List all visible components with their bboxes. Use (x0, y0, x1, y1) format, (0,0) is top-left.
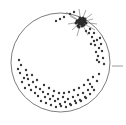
scatter-point (53, 90, 55, 92)
cluster-core-point (75, 22, 78, 25)
scatter-point (32, 81, 34, 83)
scatter-point (50, 104, 52, 106)
scatter-point (59, 18, 61, 20)
scatter-point (30, 89, 32, 91)
scatter-point (96, 39, 98, 41)
scatter-point (67, 98, 69, 100)
scatter-point (97, 55, 99, 57)
scatter-point (37, 95, 39, 97)
scatter-point (68, 91, 70, 93)
scatter-point (94, 44, 96, 46)
scatter-point (72, 96, 74, 98)
scatter-point (18, 59, 20, 61)
scatter-point (73, 89, 75, 91)
figure-container (0, 0, 126, 125)
scatter-point (100, 43, 102, 45)
scatter-point (89, 28, 91, 30)
scatter-point (49, 98, 51, 100)
scatter-point (91, 86, 93, 88)
scatter-point (99, 37, 101, 39)
scatter-point (60, 105, 62, 107)
scatter-point (73, 11, 75, 13)
scatter-point (75, 102, 77, 104)
cluster-core-point (80, 20, 83, 23)
scatter-point (87, 79, 89, 81)
scatter-point (19, 72, 21, 74)
scatter-point (93, 40, 95, 42)
scatter-point (102, 57, 104, 59)
scatter-point (55, 20, 57, 22)
scatter-point (63, 92, 65, 94)
scatter-point (93, 89, 95, 91)
figure-background (0, 0, 126, 125)
scatter-point (70, 104, 72, 106)
scatter-point (52, 95, 54, 97)
scatter-point (91, 36, 93, 38)
scatter-point (93, 32, 95, 34)
cluster-core-point (79, 17, 82, 20)
scatter-point (36, 79, 38, 81)
scatter-point (55, 106, 57, 108)
scatter-point (31, 74, 33, 76)
scatter-point (20, 64, 22, 66)
scatter-point (96, 59, 98, 61)
scatter-point (80, 100, 82, 102)
scatter-point (64, 101, 66, 103)
cluster-core-point (78, 26, 81, 29)
scatter-point (77, 94, 79, 96)
scatter-point (98, 61, 100, 63)
scatter-point (25, 69, 27, 71)
scatter-point (47, 93, 49, 95)
scatter-point (57, 98, 59, 100)
scatter-point (39, 88, 41, 90)
scatter-point (83, 84, 85, 86)
scatter-point (40, 100, 42, 102)
scatter-point (90, 43, 92, 45)
scatter-point (63, 16, 65, 18)
scatter-point (23, 77, 25, 79)
scatter-point (89, 93, 91, 95)
scatter-point (35, 86, 37, 88)
scatter-point (48, 87, 50, 89)
scatter-point (98, 47, 100, 49)
scatter-point (88, 32, 90, 34)
scatter-point (44, 96, 46, 98)
scatter-point (62, 96, 64, 98)
scatter-point (21, 81, 23, 83)
scatter-point (24, 87, 26, 89)
scatter-point (17, 68, 19, 70)
scatter-point (78, 87, 80, 89)
scatter-point (42, 91, 44, 93)
scatter-point (26, 74, 28, 76)
scatter-point (85, 97, 87, 99)
scatter-point (89, 83, 91, 85)
cluster-core-point (85, 22, 88, 25)
scatter-point (34, 92, 36, 94)
scatter-point (103, 63, 105, 65)
scatter-point (87, 89, 89, 91)
scatter-point (65, 106, 67, 108)
scatter-point (54, 100, 56, 102)
scatter-point (95, 51, 97, 53)
scatter-point (92, 76, 94, 78)
scatter-point (45, 102, 47, 104)
scatter-diagram (0, 0, 126, 125)
scatter-point (101, 50, 103, 52)
scatter-point (28, 84, 30, 86)
cluster-core-point (84, 18, 87, 21)
scatter-point (96, 80, 98, 82)
scatter-point (27, 78, 29, 80)
scatter-point (43, 84, 45, 86)
scatter-point (58, 92, 60, 94)
scatter-point (98, 73, 100, 75)
scatter-point (82, 92, 84, 94)
